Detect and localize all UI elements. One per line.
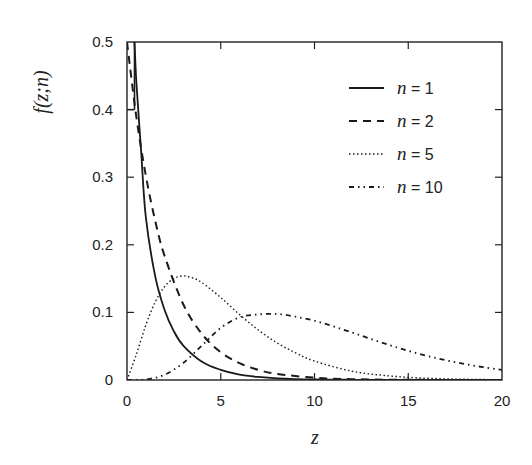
y-axis-label: f(z;n) bbox=[30, 70, 53, 114]
legend-label-n10: n = 10 bbox=[397, 176, 443, 197]
series-line-n10 bbox=[127, 314, 502, 380]
y-tick-label: 0.4 bbox=[92, 101, 113, 118]
y-tick-label: 0.3 bbox=[92, 168, 113, 185]
series-line-n1 bbox=[135, 42, 503, 380]
plot-frame bbox=[127, 42, 502, 380]
x-axis-label: z bbox=[310, 426, 319, 448]
y-tick-label: 0.2 bbox=[92, 236, 113, 253]
y-tick-label: 0.5 bbox=[92, 33, 113, 50]
x-tick-label: 5 bbox=[217, 392, 225, 409]
series-line-n2 bbox=[127, 42, 502, 380]
x-tick-label: 10 bbox=[306, 392, 323, 409]
legend-label-n1: n = 1 bbox=[397, 77, 434, 98]
chart: f(z;n) z 0510152000.10.20.30.40.5 n = 1n… bbox=[0, 0, 532, 465]
y-tick-label: 0.1 bbox=[92, 303, 113, 320]
y-tick-label: 0 bbox=[105, 371, 113, 388]
legend-label-n5: n = 5 bbox=[397, 143, 434, 164]
x-tick-label: 20 bbox=[494, 392, 511, 409]
series-line-n5 bbox=[127, 276, 502, 380]
x-tick-label: 15 bbox=[400, 392, 417, 409]
legend-label-n2: n = 2 bbox=[397, 110, 434, 131]
legend: n = 1n = 2n = 5n = 10 bbox=[349, 77, 443, 197]
x-tick-label: 0 bbox=[123, 392, 131, 409]
